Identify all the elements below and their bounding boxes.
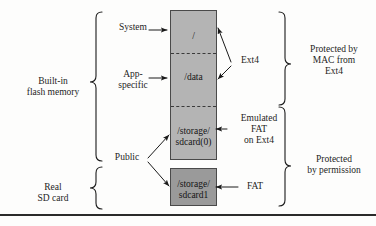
label-system: System	[110, 22, 156, 33]
arrow-public-to-sdcard0	[148, 135, 169, 158]
bottom-rule	[0, 214, 376, 216]
partition-divider-root-data	[171, 53, 216, 54]
label-app-specific: App- specific	[110, 69, 156, 91]
label-real-sd-card: Real SD card	[14, 182, 92, 204]
sd-card-box: /storage/ sdcard1	[170, 168, 217, 206]
label-ext4: Ext4	[233, 55, 267, 66]
label-emulated-fat-on-ext4: Emulated FAT on Ext4	[228, 113, 290, 147]
partition-label-sdcard0: /storage/ sdcard(0)	[171, 126, 216, 148]
label-built-in-flash-memory: Built-in flash memory	[10, 76, 96, 98]
internal-flash-box: / /data /storage/ sdcard(0)	[170, 10, 217, 160]
arrow-ext4-to-root	[218, 28, 231, 62]
arrow-ext4-to-data	[218, 66, 231, 79]
label-public: Public	[106, 152, 148, 163]
partition-label-root: /	[171, 31, 216, 42]
arrow-public-to-sdcard1	[148, 162, 169, 186]
brace-mac-protection	[279, 12, 291, 105]
label-protected-by-mac: Protected by MAC from Ext4	[296, 44, 372, 78]
partition-label-data: /data	[171, 72, 216, 83]
label-protected-by-permission: Protected by permission	[292, 154, 376, 176]
partition-divider-data-sdcard	[171, 106, 216, 107]
storage-architecture-diagram: Built-in flash memory Real SD card Syste…	[0, 0, 376, 226]
partition-label-sdcard1: /storage/ sdcard1	[171, 179, 216, 201]
label-fat: FAT	[240, 181, 270, 192]
